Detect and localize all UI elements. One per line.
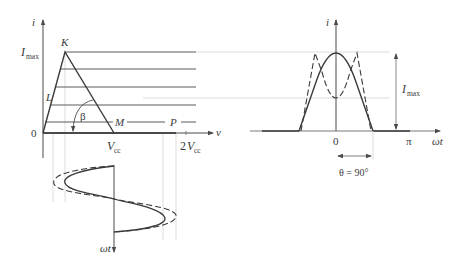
time-axis-label: ωt <box>100 242 112 254</box>
guide-lines <box>53 52 390 240</box>
left-x-axis-label: v <box>216 126 221 138</box>
point-l-label: L <box>45 91 52 103</box>
imax-dimension-label: I max <box>401 82 420 98</box>
beta-angle-label: β <box>80 110 86 122</box>
right-origin-label: 0 <box>333 135 339 147</box>
svg-text:max: max <box>407 89 420 98</box>
right-current-waveform: I max θ = 90° i 0 π ωt <box>250 16 444 178</box>
pi-tick-label: π <box>406 135 412 147</box>
amplifier-load-line-diagram: i v I max 0 K L M P β V cc 2 V cc ωt <box>0 0 460 269</box>
svg-text:max: max <box>26 52 39 61</box>
left-y-axis-label: i <box>32 16 35 28</box>
conduction-angle-label: θ = 90° <box>339 167 368 178</box>
2vcc-tick-label: 2 V cc <box>180 139 201 155</box>
load-line <box>43 52 114 133</box>
voltage-sine-dashed <box>54 166 176 232</box>
point-m-label: M <box>114 116 125 128</box>
vcc-tick-label: V cc <box>107 139 121 155</box>
collector-curves <box>45 52 196 122</box>
svg-text:2: 2 <box>180 139 186 153</box>
svg-text:cc: cc <box>194 146 201 155</box>
imax-tick-label: I max <box>20 45 39 61</box>
point-k-label: K <box>60 36 69 48</box>
left-origin-label: 0 <box>31 127 37 139</box>
svg-text:cc: cc <box>114 146 121 155</box>
point-p-label: P <box>169 116 177 128</box>
right-x-axis-label: ωt <box>432 135 444 147</box>
right-y-axis-label: i <box>326 16 329 28</box>
